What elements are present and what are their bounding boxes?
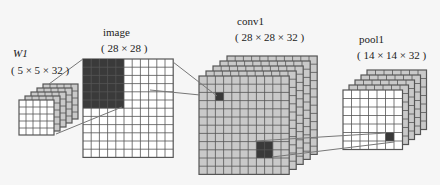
cnn-diagram-canvas bbox=[0, 0, 440, 185]
input-image-grid bbox=[83, 59, 173, 157]
conv1-label: conv1 bbox=[237, 15, 264, 28]
pool1-label: pool1 bbox=[359, 33, 384, 46]
highlight-region bbox=[386, 133, 395, 142]
pool1-dims-label: ( 14 × 14 × 32 ) bbox=[357, 49, 426, 62]
image-dims-label: ( 28 × 28 ) bbox=[101, 42, 148, 55]
w1-label: W1 bbox=[13, 47, 28, 60]
image-label: image bbox=[103, 26, 130, 39]
w1-filter-stack bbox=[19, 84, 78, 135]
highlight-region bbox=[215, 92, 223, 100]
pool1-feature-map-stack bbox=[343, 70, 427, 150]
w1-dims-label: ( 5 × 5 × 32 ) bbox=[11, 64, 69, 77]
conv1-dims-label: ( 28 × 28 × 32 ) bbox=[235, 31, 304, 44]
conv1-feature-map-stack bbox=[199, 56, 317, 174]
